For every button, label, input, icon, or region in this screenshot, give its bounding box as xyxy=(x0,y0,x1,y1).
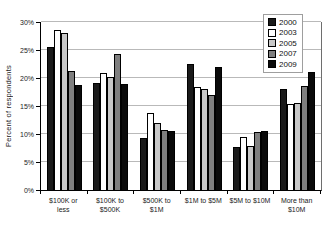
legend-swatch-2000 xyxy=(268,18,276,26)
y-tick-label-25: 25% xyxy=(4,47,34,54)
bar-2003-cat3 xyxy=(147,113,154,190)
y-tick-label-0: 0% xyxy=(4,187,34,194)
y-tick-mark-5 xyxy=(36,162,40,163)
x-axis-label-2: $100K to $500K xyxy=(89,197,132,214)
y-tick-mark-25 xyxy=(36,50,40,51)
legend-label-2007: 2007 xyxy=(279,49,297,58)
y-tick-label-5: 5% xyxy=(4,159,34,166)
bar-2003-cat4 xyxy=(194,87,201,190)
legend-item-2000: 2000 xyxy=(268,17,297,28)
bar-2007-cat3 xyxy=(161,130,168,190)
x-axis-label-5: $5M to $10M xyxy=(229,197,272,206)
bar-2005-cat5 xyxy=(247,146,254,190)
bar-2003-cat5 xyxy=(240,137,247,190)
bar-2000-cat6 xyxy=(280,89,287,190)
bar-group-3 xyxy=(134,22,181,190)
bar-2007-cat2 xyxy=(114,54,121,190)
x-tick-mark-4 xyxy=(227,191,228,194)
bar-2003-cat1 xyxy=(54,30,61,190)
bar-group-2 xyxy=(88,22,135,190)
legend-item-2009: 2009 xyxy=(268,59,297,70)
bar-group-1 xyxy=(41,22,88,190)
y-tick-label-30: 30% xyxy=(4,19,34,26)
legend-label-2005: 2005 xyxy=(279,39,297,48)
bar-2000-cat4 xyxy=(187,64,194,190)
x-axis-label-1: $100K or less xyxy=(42,197,85,214)
bar-2003-cat2 xyxy=(100,73,107,190)
bar-2000-cat1 xyxy=(47,47,54,190)
x-axis-label-6: More than $10M xyxy=(275,197,318,214)
y-tick-mark-20 xyxy=(36,78,40,79)
bar-2009-cat1 xyxy=(75,85,82,190)
legend: 20002003200520072009 xyxy=(263,14,303,73)
x-tick-mark-2 xyxy=(133,191,134,194)
bar-2007-cat6 xyxy=(301,86,308,190)
legend-swatch-2007 xyxy=(268,50,276,58)
legend-item-2007: 2007 xyxy=(268,49,297,60)
x-tick-mark-3 xyxy=(180,191,181,194)
bar-2007-cat1 xyxy=(68,71,75,190)
bar-2007-cat4 xyxy=(208,95,215,190)
bar-2009-cat3 xyxy=(168,131,175,190)
legend-swatch-2005 xyxy=(268,39,276,47)
bar-2005-cat6 xyxy=(294,103,301,190)
legend-swatch-2009 xyxy=(268,60,276,68)
y-tick-label-10: 10% xyxy=(4,131,34,138)
legend-label-2003: 2003 xyxy=(279,28,297,37)
x-tick-mark-6 xyxy=(320,191,321,194)
x-tick-mark-0 xyxy=(40,191,41,194)
y-tick-mark-15 xyxy=(36,106,40,107)
bar-2005-cat3 xyxy=(154,123,161,190)
legend-item-2003: 2003 xyxy=(268,28,297,39)
x-tick-mark-5 xyxy=(273,191,274,194)
y-tick-label-15: 15% xyxy=(4,103,34,110)
y-tick-mark-30 xyxy=(36,22,40,23)
bar-2000-cat3 xyxy=(140,138,147,190)
y-tick-label-20: 20% xyxy=(4,75,34,82)
y-tick-mark-10 xyxy=(36,134,40,135)
legend-swatch-2003 xyxy=(268,29,276,37)
bar-2009-cat4 xyxy=(215,67,222,190)
bar-2009-cat5 xyxy=(261,131,268,190)
x-axis-label-4: $1M to $5M xyxy=(182,197,225,206)
bar-2005-cat4 xyxy=(201,89,208,190)
bar-2009-cat2 xyxy=(121,84,128,190)
legend-item-2005: 2005 xyxy=(268,38,297,49)
bar-2007-cat5 xyxy=(254,132,261,190)
bar-group-4 xyxy=(181,22,228,190)
legend-label-2009: 2009 xyxy=(279,60,297,69)
bar-2005-cat2 xyxy=(107,77,114,190)
bar-2009-cat6 xyxy=(308,72,315,190)
bar-2000-cat2 xyxy=(93,83,100,190)
legend-label-2000: 2000 xyxy=(279,18,297,27)
x-axis-label-3: $500K to $1M xyxy=(135,197,178,214)
x-tick-mark-1 xyxy=(87,191,88,194)
bar-2000-cat5 xyxy=(233,147,240,190)
bar-chart: Percent of respondents 20002003200520072… xyxy=(0,0,330,227)
bar-2003-cat6 xyxy=(287,104,294,190)
bar-2005-cat1 xyxy=(61,33,68,190)
